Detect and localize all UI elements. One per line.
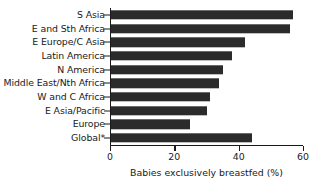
chart-row: S Asia	[0, 8, 320, 22]
chart-row: W and C Africa	[0, 90, 320, 104]
bar-rows: S Asia E and Sth Africa E Europe/C Asia …	[0, 8, 320, 145]
y-axis-line	[110, 8, 111, 145]
chart-row: E Europe/C Asia	[0, 35, 320, 49]
bar	[110, 133, 252, 142]
category-label: Middle East/Nth Africa	[4, 79, 105, 88]
chart-row: Latin America	[0, 49, 320, 63]
chart-row: Europe	[0, 118, 320, 132]
bar	[110, 38, 245, 47]
x-tick-label: 20	[168, 152, 180, 161]
x-tick-label: 0	[107, 152, 113, 161]
category-label: Latin America	[41, 51, 105, 60]
bar	[110, 10, 293, 19]
x-tick-label: 40	[233, 152, 245, 161]
bar	[110, 92, 210, 101]
x-tick-label: 60	[297, 152, 309, 161]
category-label: N America	[57, 65, 105, 74]
category-label: Global*	[71, 133, 105, 142]
category-label: Europe	[73, 120, 105, 129]
bar	[110, 79, 219, 88]
category-label: E Europe/C Asia	[32, 38, 105, 47]
bar	[110, 65, 223, 74]
x-axis-line	[110, 145, 303, 146]
plot-area: S Asia E and Sth Africa E Europe/C Asia …	[0, 0, 320, 190]
category-label: S Asia	[77, 10, 105, 19]
x-axis-title: Babies exclusively breastfed (%)	[110, 168, 303, 177]
bar	[110, 106, 207, 115]
bar	[110, 120, 190, 129]
bar-chart: S Asia E and Sth Africa E Europe/C Asia …	[0, 0, 320, 190]
category-label: W and C Africa	[37, 92, 105, 101]
chart-row: E Asia/Pacific	[0, 104, 320, 118]
chart-row: E and Sth Africa	[0, 22, 320, 36]
chart-row: Middle East/Nth Africa	[0, 76, 320, 90]
category-label: E Asia/Pacific	[45, 106, 105, 115]
bar	[110, 24, 290, 33]
chart-row: Global*	[0, 131, 320, 145]
category-label: E and Sth Africa	[32, 24, 105, 33]
bar	[110, 51, 232, 60]
chart-row: N America	[0, 63, 320, 77]
